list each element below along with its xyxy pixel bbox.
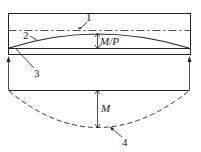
arrowhead-icon — [78, 27, 81, 29]
leader-3 — [16, 49, 34, 68]
label-moment: M — [100, 102, 111, 114]
arrowhead-icon — [110, 127, 114, 131]
left-support-arrow-icon — [7, 56, 11, 62]
leader-1 — [80, 22, 87, 29]
label-2: 2 — [23, 29, 29, 41]
label-1: 1 — [86, 11, 92, 23]
leader-2 — [30, 36, 37, 40]
label-4: 4 — [122, 136, 128, 148]
right-support-arrow-icon — [188, 56, 192, 62]
label-eccentricity: M/P — [99, 35, 119, 47]
prestressed-beam-diagram: M/P 1 2 3 M 4 — [0, 0, 201, 152]
moment-curve — [9, 91, 189, 128]
label-3: 3 — [34, 67, 40, 79]
